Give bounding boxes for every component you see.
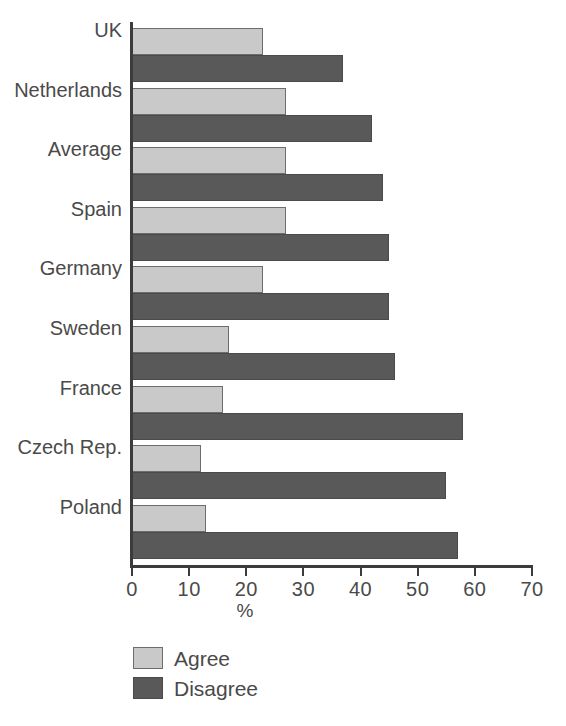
- bar-agree-netherlands: [132, 88, 286, 115]
- bar-agree-uk: [132, 28, 263, 55]
- y-axis-line: [130, 22, 133, 567]
- x-tick-label: 40: [331, 578, 391, 601]
- legend-swatch-agree: [133, 647, 163, 669]
- bar-agree-poland: [132, 505, 206, 532]
- category-label: Poland: [2, 496, 122, 519]
- x-tick-label: 0: [102, 578, 162, 601]
- x-tick: [245, 567, 247, 576]
- x-tick-label: 70: [502, 578, 562, 601]
- legend-swatch-disagree: [133, 677, 163, 699]
- legend-label-disagree: Disagree: [174, 678, 258, 699]
- category-label: Sweden: [2, 317, 122, 340]
- x-axis-line: [130, 565, 533, 568]
- x-tick-label: 10: [159, 578, 219, 601]
- category-label: France: [2, 377, 122, 400]
- category-label: Netherlands: [2, 79, 122, 102]
- bar-disagree-france: [132, 413, 463, 440]
- x-tick-label: 30: [273, 578, 333, 601]
- x-tick: [360, 567, 362, 576]
- x-tick: [531, 567, 533, 576]
- bar-disagree-germany: [132, 293, 389, 320]
- plot-area: [132, 26, 532, 565]
- category-label: Czech Rep.: [2, 436, 122, 459]
- bar-disagree-czech-rep: [132, 472, 446, 499]
- x-axis-title: %: [0, 600, 566, 622]
- bar-agree-sweden: [132, 326, 229, 353]
- x-tick: [188, 567, 190, 576]
- x-tick-label: 60: [445, 578, 505, 601]
- category-label: Average: [2, 138, 122, 161]
- legend: Agree Disagree: [133, 643, 258, 703]
- legend-item-disagree: Disagree: [133, 673, 258, 703]
- bar-agree-france: [132, 386, 223, 413]
- x-axis-title-text: %: [237, 600, 254, 621]
- x-tick: [474, 567, 476, 576]
- bar-disagree-spain: [132, 234, 389, 261]
- bar-disagree-netherlands: [132, 115, 372, 142]
- bar-chart: UKNetherlandsAverageSpainGermanySwedenFr…: [0, 0, 566, 726]
- category-label: Germany: [2, 257, 122, 280]
- bar-disagree-uk: [132, 55, 343, 82]
- bar-disagree-sweden: [132, 353, 395, 380]
- bar-agree-czech-rep: [132, 445, 201, 472]
- x-tick-label: 50: [388, 578, 448, 601]
- bar-agree-spain: [132, 207, 286, 234]
- legend-item-agree: Agree: [133, 643, 258, 673]
- x-tick-label: 20: [216, 578, 276, 601]
- bar-disagree-poland: [132, 532, 458, 559]
- category-label: UK: [2, 19, 122, 42]
- x-tick: [302, 567, 304, 576]
- bar-agree-germany: [132, 266, 263, 293]
- category-label: Spain: [2, 198, 122, 221]
- legend-label-agree: Agree: [174, 648, 230, 669]
- bar-disagree-average: [132, 174, 383, 201]
- x-tick: [417, 567, 419, 576]
- bar-agree-average: [132, 147, 286, 174]
- x-tick: [131, 567, 133, 576]
